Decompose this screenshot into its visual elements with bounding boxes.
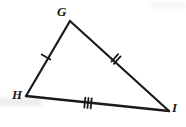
triangle-edge-hi (26, 96, 169, 111)
congruence-tick-marks (42, 54, 121, 108)
side-h-i-tick-2 (87, 98, 88, 108)
triangle-outline (26, 21, 169, 111)
triangle-figure: G H I (0, 0, 186, 127)
side-h-i-tick-3 (91, 98, 92, 108)
vertex-label-i: I (172, 101, 177, 114)
vertex-label-g: G (57, 5, 66, 18)
side-h-i-tick-1 (84, 98, 85, 108)
vertex-label-h: H (12, 88, 22, 101)
triangle-diagram-canvas (0, 0, 186, 127)
